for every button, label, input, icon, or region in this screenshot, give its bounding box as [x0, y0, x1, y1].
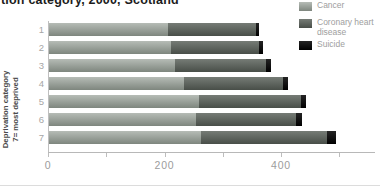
category-label: 3 [28, 60, 44, 71]
x-axis-line [48, 152, 375, 153]
bar-segment-coronary-heart-disease [168, 23, 255, 36]
y-axis-label-line1: Deprivation category [1, 50, 11, 170]
category-label: 2 [28, 42, 44, 53]
bottom-divider [0, 185, 380, 186]
bar-segment-cancer [49, 113, 196, 126]
bar-segment-suicide [301, 95, 306, 108]
x-axis-tick [165, 153, 166, 157]
bar-segment-coronary-heart-disease [171, 41, 259, 54]
bar-segment-suicide [283, 77, 288, 90]
legend-label: Suicide [317, 40, 379, 50]
x-axis-tick-label: 200 [155, 159, 175, 171]
bar-segment-cancer [49, 23, 168, 36]
chart-title: tion category, 2000, Scotland [1, 0, 179, 7]
x-axis-tick-label: 0 [45, 159, 52, 171]
legend-swatch-coronary-heart-disease [299, 19, 312, 28]
y-axis-label-line2: 7= most deprived [11, 50, 21, 170]
y-axis-label: Deprivation category 7= most deprived [1, 50, 22, 170]
bar-segment-suicide [296, 113, 302, 126]
x-axis-tick [281, 153, 282, 157]
legend-swatch-cancer [299, 2, 312, 11]
bar-segment-cancer [49, 95, 199, 108]
bar-segment-coronary-heart-disease [199, 95, 300, 108]
bar-segment-suicide [256, 23, 259, 36]
bar-segment-suicide [266, 59, 271, 72]
bar-segment-suicide [259, 41, 263, 54]
x-axis-tick [223, 153, 224, 157]
x-axis-tick [106, 153, 107, 157]
x-axis-tick [339, 153, 340, 157]
category-label: 7 [28, 132, 44, 143]
category-label: 4 [28, 78, 44, 89]
category-label: 1 [28, 24, 44, 35]
legend-label: Coronary heart disease [317, 18, 379, 37]
bar-segment-cancer [49, 41, 171, 54]
x-axis-tick-label: 400 [271, 159, 291, 171]
bar-segment-cancer [49, 131, 201, 144]
bar-segment-cancer [49, 77, 184, 90]
bar-segment-suicide [327, 131, 335, 144]
x-axis-tick [48, 153, 49, 157]
bar-segment-coronary-heart-disease [201, 131, 327, 144]
bar-segment-coronary-heart-disease [184, 77, 282, 90]
legend-label: Cancer [317, 1, 379, 11]
chart: tion category, 2000, Scotland Deprivatio… [0, 0, 380, 189]
bar-segment-coronary-heart-disease [196, 113, 296, 126]
category-label: 6 [28, 114, 44, 125]
category-label: 5 [28, 96, 44, 107]
bar-segment-coronary-heart-disease [175, 59, 266, 72]
bar-segment-cancer [49, 59, 175, 72]
legend-swatch-suicide [299, 41, 312, 50]
